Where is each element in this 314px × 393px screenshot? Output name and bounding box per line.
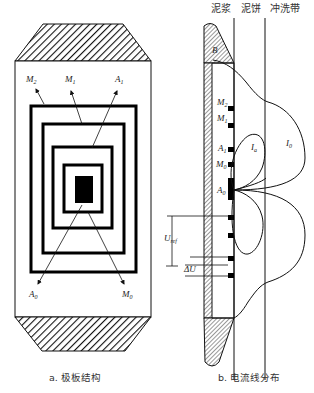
zone-label-mudcake: 泥饼 — [241, 2, 261, 14]
pad-holder-top — [204, 24, 234, 64]
caption-b: b. 电流线分布 — [218, 372, 280, 383]
center-electrode-a0 — [75, 176, 93, 203]
electrode-m0 — [228, 162, 234, 167]
caption-a: a. 极板结构 — [49, 372, 101, 383]
top-insulator-hatched — [15, 24, 151, 61]
label-i0: I0 — [285, 138, 292, 149]
electrode-m2 — [228, 106, 234, 111]
label-ia: Ia — [250, 142, 257, 153]
pad-holder-back — [204, 63, 212, 318]
figure-canvas: M2 M1 A1 A0 M0 a. 极板结构 泥浆 泥饼 冲洗带 B — [0, 0, 314, 393]
label-b-m2: M2 — [216, 97, 228, 108]
current-line-i0-upper — [213, 60, 305, 190]
electrode-lower-m0 — [228, 215, 234, 220]
bottom-insulator-hatched — [15, 317, 151, 351]
panel-a-electrode-structure: M2 M1 A1 A0 M0 a. 极板结构 — [15, 24, 151, 383]
electrode-m1 — [228, 123, 234, 128]
label-b-m0: M0 — [215, 159, 227, 170]
electrode-a1 — [228, 147, 234, 152]
current-line-ia-lower — [232, 190, 263, 254]
zone-label-mud: 泥浆 — [211, 2, 231, 14]
panel-b-current-distribution: 泥浆 泥饼 冲洗带 B M2 M1 A1 M0 A0 — [164, 2, 305, 383]
label-b: B — [212, 45, 218, 55]
electrode-lower-m2 — [228, 273, 234, 278]
label-uref: Uref — [164, 233, 178, 244]
label-b-m1: M1 — [216, 113, 228, 124]
label-b-a1: A1 — [217, 143, 227, 154]
pad-holder-bottom — [204, 318, 234, 366]
label-delta-u: ΔU — [183, 264, 196, 274]
electrode-lower-m1 — [228, 256, 234, 261]
zone-label-flushed-zone: 冲洗带 — [270, 2, 300, 14]
label-b-a0: A0 — [216, 185, 226, 196]
